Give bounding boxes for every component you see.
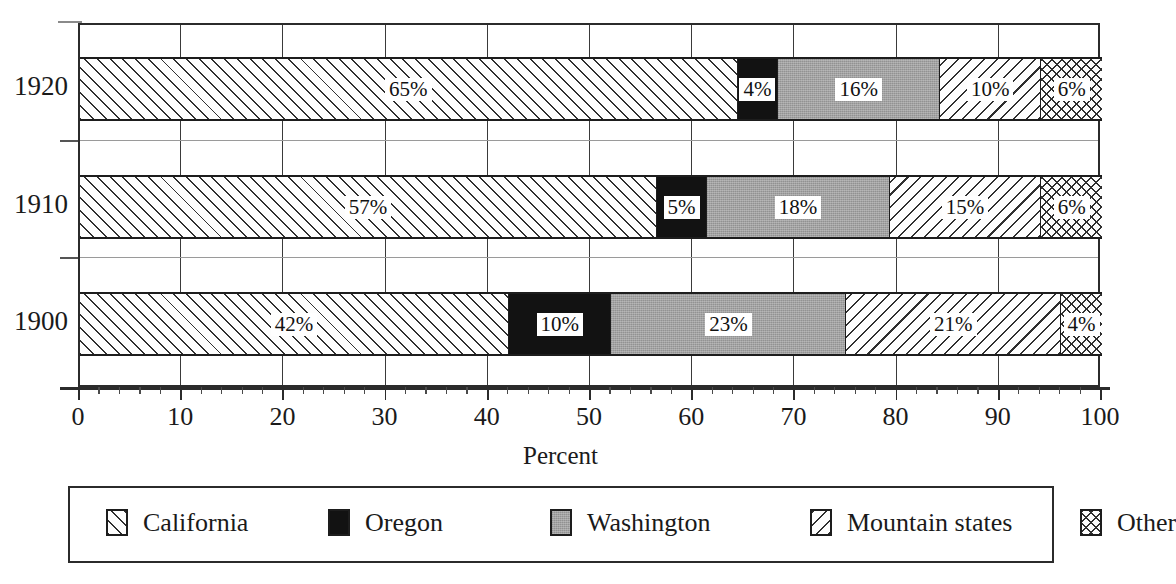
segment-value-label: 42% (271, 313, 318, 336)
crosshatch-swatch (1080, 509, 1102, 536)
y-tick-mark-1 (60, 257, 78, 259)
x-minor-tick-28 (364, 387, 365, 394)
x-tick-40 (487, 387, 489, 400)
segment-value-label: 15% (942, 196, 989, 219)
x-minor-tick-74 (834, 387, 835, 394)
x-minor-tick-52 (609, 387, 610, 394)
x-minor-tick-8 (160, 387, 161, 394)
legend-item-mountain-states[interactable]: Mountain states (810, 509, 1012, 536)
solid-black-swatch (328, 509, 350, 536)
x-tick-60 (691, 387, 693, 400)
chart-legend: CaliforniaOregonWashingtonMountain state… (68, 486, 1054, 563)
x-tick-10 (180, 387, 182, 400)
band-separator-1 (80, 257, 1098, 258)
x-minor-tick-32 (405, 387, 406, 394)
bar-1920: 65%4%16%10%6% (80, 57, 1102, 121)
bar-segment-1910-other: 6% (1041, 177, 1102, 237)
x-minor-tick-64 (732, 387, 733, 394)
x-tick-20 (282, 387, 284, 400)
x-minor-tick-6 (139, 387, 140, 394)
x-minor-tick-24 (323, 387, 324, 394)
bar-segment-1910-california: 57% (80, 177, 657, 237)
x-minor-tick-88 (977, 387, 978, 394)
x-minor-tick-48 (569, 387, 570, 394)
x-tick-label-100: 100 (1065, 404, 1135, 430)
segment-value-label: 10% (537, 313, 584, 336)
x-tick-label-60: 60 (656, 404, 726, 430)
x-minor-tick-66 (753, 387, 754, 394)
segment-value-label: 57% (345, 196, 392, 219)
x-tick-70 (793, 387, 795, 400)
legend-label: California (143, 510, 248, 536)
segment-value-label: 21% (930, 313, 977, 336)
bar-segment-1900-washington: 23% (611, 294, 846, 354)
bar-segment-1900-other: 4% (1061, 294, 1102, 354)
back-diagonal-hatch-swatch (810, 509, 832, 536)
legend-label: Washington (587, 510, 711, 536)
x-minor-tick-36 (446, 387, 447, 394)
bar-segment-1910-mountain-states: 15% (890, 177, 1042, 237)
segment-value-label: 18% (775, 196, 822, 219)
x-minor-tick-46 (548, 387, 549, 394)
band-separator-0 (80, 140, 1098, 141)
x-tick-label-20: 20 (247, 404, 317, 430)
legend-item-other[interactable]: Other (1080, 509, 1176, 536)
legend-label: Mountain states (847, 510, 1012, 536)
y-tick-label-1910: 1910 (0, 191, 68, 218)
x-minor-tick-34 (425, 387, 426, 394)
bar-segment-1920-oregon: 4% (738, 59, 778, 119)
x-tick-label-0: 0 (43, 404, 113, 430)
x-tick-80 (896, 387, 898, 400)
x-minor-tick-82 (916, 387, 917, 394)
x-minor-tick-56 (650, 387, 651, 394)
x-minor-tick-58 (671, 387, 672, 394)
x-minor-tick-38 (466, 387, 467, 394)
segment-value-label: 16% (835, 78, 882, 101)
x-tick-label-40: 40 (452, 404, 522, 430)
x-minor-tick-22 (303, 387, 304, 394)
x-minor-tick-94 (1039, 387, 1040, 394)
segment-value-label: 5% (664, 196, 700, 219)
x-tick-label-30: 30 (350, 404, 420, 430)
segment-value-label: 4% (1064, 313, 1100, 336)
bar-segment-1910-washington: 18% (707, 177, 889, 237)
x-minor-tick-92 (1018, 387, 1019, 394)
x-minor-tick-14 (221, 387, 222, 394)
legend-item-california[interactable]: California (106, 509, 248, 536)
legend-label: Other (1117, 510, 1176, 536)
bar-segment-1920-mountain-states: 10% (940, 59, 1041, 119)
x-minor-tick-18 (262, 387, 263, 394)
x-minor-tick-62 (712, 387, 713, 394)
x-tick-90 (998, 387, 1000, 400)
x-minor-tick-44 (528, 387, 529, 394)
y-tick-label-1900: 1900 (0, 308, 68, 335)
x-tick-label-80: 80 (861, 404, 931, 430)
x-minor-tick-84 (936, 387, 937, 394)
bar-segment-1920-other: 6% (1041, 59, 1102, 119)
x-tick-label-70: 70 (758, 404, 828, 430)
y-tick-label-1920: 1920 (0, 73, 68, 100)
legend-item-oregon[interactable]: Oregon (328, 509, 443, 536)
x-minor-tick-76 (855, 387, 856, 394)
x-minor-tick-96 (1059, 387, 1060, 394)
segment-value-label: 4% (739, 78, 775, 101)
legend-item-washington[interactable]: Washington (550, 509, 711, 536)
x-minor-tick-26 (344, 387, 345, 394)
segment-value-label: 6% (1054, 78, 1090, 101)
segment-value-label: 10% (967, 78, 1014, 101)
x-minor-tick-12 (201, 387, 202, 394)
x-tick-100 (1100, 387, 1102, 400)
x-minor-tick-68 (773, 387, 774, 394)
x-minor-tick-16 (242, 387, 243, 394)
x-minor-tick-86 (957, 387, 958, 394)
x-axis-line (60, 387, 1110, 390)
bar-segment-1910-oregon: 5% (657, 177, 708, 237)
plot-area: 65%4%16%10%6%57%5%18%15%6%42%10%23%21%4% (78, 23, 1100, 387)
forward-diagonal-hatch-swatch (106, 509, 128, 536)
x-minor-tick-78 (875, 387, 876, 394)
x-tick-50 (589, 387, 591, 400)
legend-label: Oregon (365, 510, 443, 536)
bar-segment-1900-oregon: 10% (509, 294, 611, 354)
x-tick-label-10: 10 (145, 404, 215, 430)
x-tick-30 (385, 387, 387, 400)
